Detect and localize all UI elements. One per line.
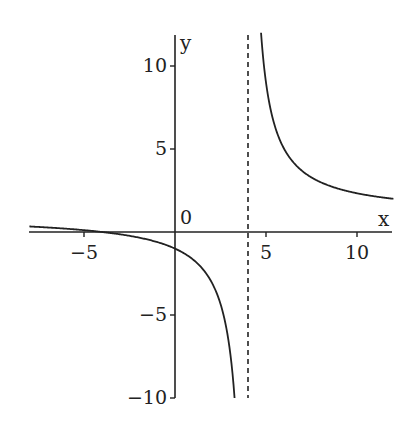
x-axis-label: x — [378, 207, 390, 231]
y-tick-label: 5 — [155, 137, 167, 159]
y-axis-label: y — [179, 31, 192, 55]
origin-label: 0 — [180, 206, 192, 228]
x-tick-label: 5 — [260, 241, 272, 263]
y-tick-label: −5 — [139, 303, 167, 325]
curve-left-branch — [29, 226, 234, 398]
curve-right-branch — [261, 33, 393, 199]
y-tick-label: 10 — [143, 54, 167, 76]
x-tick-label: −5 — [70, 241, 98, 263]
x-tick-label: 10 — [345, 241, 369, 263]
function-plot: −5 5 10 10 5 −5 −10 0 x y — [0, 0, 408, 427]
y-tick-label: −10 — [127, 386, 167, 408]
